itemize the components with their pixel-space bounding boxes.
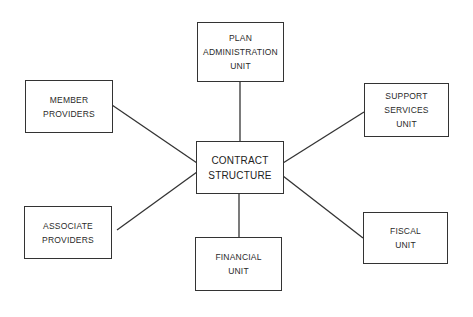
node-label-line: MEMBER [50, 93, 89, 107]
node-label-line: SERVICES [384, 103, 428, 117]
node-label-line: UNIT [395, 238, 416, 252]
edge-fiscal-unit [283, 176, 363, 238]
edge-support-services [283, 112, 364, 163]
edge-associate-providers [117, 172, 197, 230]
node-contract-structure: CONTRACT STRUCTURE [196, 141, 284, 194]
node-label-line: ADMINISTRATION [203, 45, 278, 59]
node-label-line: CONTRACT [211, 153, 268, 168]
node-label-line: ASSOCIATE [43, 219, 93, 233]
edge-member-providers [112, 105, 197, 163]
node-financial-unit: FINANCIAL UNIT [195, 237, 282, 291]
node-label-line: PLAN [229, 31, 252, 45]
node-fiscal-unit: FISCAL UNIT [363, 212, 448, 264]
node-associate-providers: ASSOCIATE PROVIDERS [24, 206, 112, 259]
node-label-line: FISCAL [390, 224, 421, 238]
node-label-line: PROVIDERS [42, 233, 94, 247]
node-support-services-unit: SUPPORT SERVICES UNIT [364, 83, 449, 137]
node-label-line: UNIT [228, 264, 249, 278]
node-label-line: UNIT [396, 117, 417, 131]
contract-structure-diagram: PLAN ADMINISTRATION UNIT CONTRACT STRUCT… [0, 0, 473, 317]
node-label-line: UNIT [230, 59, 251, 73]
node-label-line: STRUCTURE [208, 168, 271, 183]
node-member-providers: MEMBER PROVIDERS [25, 80, 113, 133]
node-plan-administration-unit: PLAN ADMINISTRATION UNIT [197, 22, 284, 82]
node-label-line: PROVIDERS [43, 107, 95, 121]
node-label-line: FINANCIAL [215, 250, 261, 264]
node-label-line: SUPPORT [385, 89, 427, 103]
